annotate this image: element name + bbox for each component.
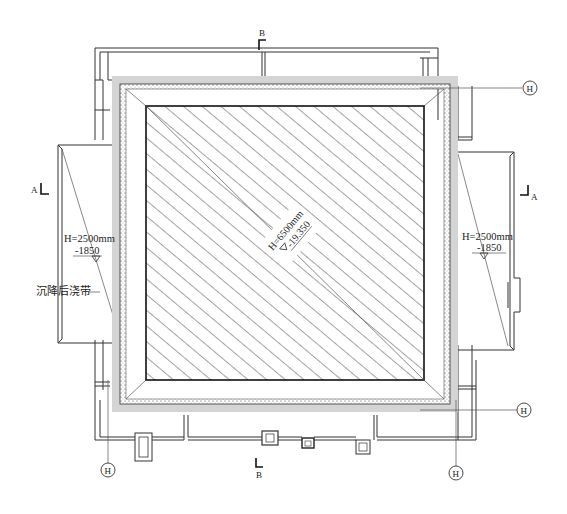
svg-text:H: H: [453, 469, 460, 479]
section-mark-bottom: B: [256, 458, 263, 480]
svg-text:B: B: [256, 470, 262, 480]
right-depth-text: H=2500mm: [462, 231, 513, 242]
section-mark-right: A: [520, 185, 538, 202]
section-mark-left: A: [31, 183, 49, 195]
section-mark-top: B: [259, 28, 266, 50]
grid-marker-top-right: H: [523, 81, 537, 95]
foundation-plan-drawing: H=6500mm -19.350 H=2500mm -1850 沉降后浇带 H=…: [0, 0, 567, 514]
right-depth-annotation: H=2500mm -1850: [462, 231, 513, 259]
svg-text:A: A: [531, 192, 538, 202]
left-level-text: -1850: [75, 245, 100, 256]
svg-text:B: B: [259, 28, 265, 38]
right-level-text: -1850: [477, 242, 502, 253]
left-depth-text: H=2500mm: [64, 233, 115, 244]
svg-text:A: A: [31, 185, 38, 195]
svg-text:H: H: [521, 406, 528, 416]
grid-marker-bottom-center-right: H: [449, 466, 463, 480]
grid-marker-bottom-right: H: [517, 403, 531, 417]
grid-marker-bottom-left: H: [101, 463, 115, 477]
svg-text:H: H: [105, 466, 112, 476]
settlement-band-label: 沉降后浇带: [36, 284, 91, 298]
column-pads: [135, 431, 370, 461]
left-shallow-pit: [58, 145, 120, 343]
svg-text:H: H: [527, 84, 534, 94]
left-depth-annotation: H=2500mm -1850 沉降后浇带: [36, 233, 115, 298]
